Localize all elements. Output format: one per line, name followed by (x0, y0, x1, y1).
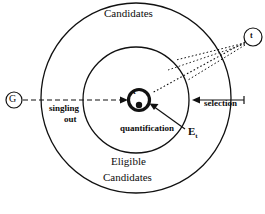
label-center-node-t: t (133, 88, 136, 96)
ray-to-center-dotted (152, 42, 245, 93)
center-node-dot (136, 102, 142, 108)
label-singling-out-line2: out (64, 115, 77, 124)
singling-out-arrowhead (120, 96, 128, 103)
label-origin-node-g: G (9, 94, 16, 104)
ray-middle-dotted (168, 44, 245, 70)
label-singling-out-line1: singling (49, 104, 79, 113)
label-quantification: quantification (120, 124, 174, 133)
selection-arrowhead (192, 96, 200, 103)
label-et-subscript: t (195, 132, 197, 140)
label-selection: selection (204, 99, 237, 108)
label-inner-boundary-et: Et (188, 126, 198, 140)
source-node-t-circle (244, 28, 262, 46)
label-source-node-t: t (250, 32, 253, 40)
label-inner-region-line2: Candidates (103, 172, 152, 183)
diagram-canvas: Candidates Eligible Candidates singling … (0, 0, 265, 214)
ray-lower-dotted (188, 45, 245, 80)
label-outer-region: Candidates (104, 8, 153, 19)
label-inner-region-line1: Eligible (111, 156, 146, 167)
